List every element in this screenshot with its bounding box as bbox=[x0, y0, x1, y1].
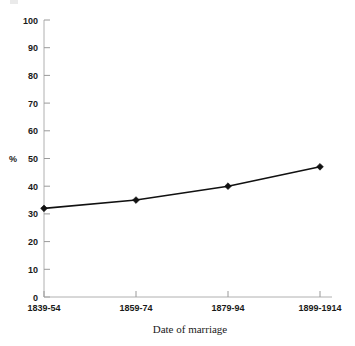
y-tick-label-40: 40 bbox=[28, 182, 38, 192]
y-axis: 100 90 80 70 60 50 40 30 20 10 0 % bbox=[9, 16, 50, 303]
x-axis-title: Date of marriage bbox=[153, 323, 228, 335]
data-point-2 bbox=[225, 183, 232, 190]
y-tick-label-80: 80 bbox=[28, 71, 38, 81]
y-tick-label-20: 20 bbox=[28, 237, 38, 247]
chart-page: 100 90 80 70 60 50 40 30 20 10 0 % 1839-… bbox=[0, 0, 355, 346]
y-tick-label-70: 70 bbox=[28, 99, 38, 109]
x-tick-label-1: 1859-74 bbox=[119, 303, 152, 313]
data-point-3 bbox=[317, 163, 324, 170]
y-tick-marks bbox=[44, 20, 50, 297]
x-tick-label-2: 1879-94 bbox=[211, 303, 244, 313]
series-line bbox=[44, 167, 320, 209]
y-tick-label-60: 60 bbox=[28, 126, 38, 136]
x-tick-label-0: 1839-54 bbox=[27, 303, 60, 313]
y-axis-title: % bbox=[9, 154, 17, 164]
x-tick-marks bbox=[44, 291, 320, 297]
x-axis: 1839-54 1859-74 1879-94 1899-1914 Date o… bbox=[27, 291, 341, 335]
x-tick-label-3: 1899-1914 bbox=[298, 303, 341, 313]
y-tick-label-100: 100 bbox=[23, 16, 38, 26]
y-tick-label-0: 0 bbox=[33, 293, 38, 303]
series-group bbox=[41, 163, 324, 211]
y-tick-label-30: 30 bbox=[28, 209, 38, 219]
data-point-1 bbox=[133, 197, 140, 204]
line-chart: 100 90 80 70 60 50 40 30 20 10 0 % 1839-… bbox=[0, 0, 355, 346]
y-tick-label-50: 50 bbox=[28, 154, 38, 164]
y-tick-label-90: 90 bbox=[28, 43, 38, 53]
y-tick-label-10: 10 bbox=[28, 265, 38, 275]
data-point-0 bbox=[41, 205, 48, 212]
